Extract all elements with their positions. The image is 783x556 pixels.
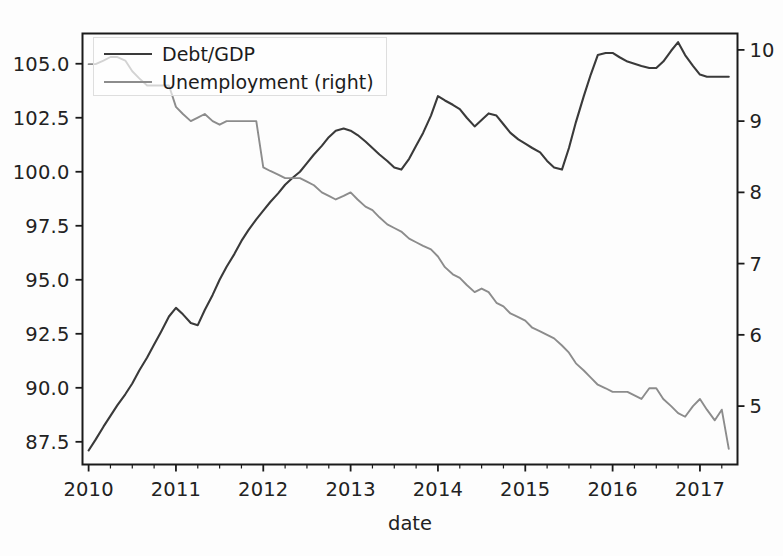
chart-figure: 105.0102.5100.097.595.092.590.087.5 1098… bbox=[0, 0, 783, 556]
x-tick-label: 2014 bbox=[413, 478, 463, 501]
y-tick-label-left: 100.0 bbox=[0, 160, 70, 183]
legend-item-unemployment[interactable]: Unemployment (right) bbox=[94, 67, 386, 96]
y-tick-label-right: 7 bbox=[750, 252, 763, 275]
x-tick-label: 2012 bbox=[238, 478, 288, 501]
series-line-debt-gdp bbox=[89, 42, 729, 450]
x-tick-label: 2016 bbox=[587, 478, 637, 501]
y-tick-label-right: 10 bbox=[750, 38, 775, 61]
legend-item-debt-gdp[interactable]: Debt/GDP bbox=[94, 39, 386, 68]
y-tick-label-right: 9 bbox=[750, 110, 763, 133]
y-tick-label-left: 102.5 bbox=[0, 106, 70, 129]
series-line-unemployment bbox=[89, 57, 729, 449]
legend-label-unemployment: Unemployment (right) bbox=[162, 71, 374, 93]
y-tick-label-left: 97.5 bbox=[0, 214, 70, 237]
y-tick-label-right: 5 bbox=[750, 395, 763, 418]
axes-frame bbox=[83, 34, 738, 465]
x-axis-label: date bbox=[388, 512, 432, 535]
y-tick-label-right: 6 bbox=[750, 323, 763, 346]
x-tick-label: 2015 bbox=[500, 478, 550, 501]
axis-ticks bbox=[76, 50, 745, 472]
y-tick-label-left: 105.0 bbox=[0, 52, 70, 75]
line-swatch-debt-icon bbox=[104, 53, 152, 55]
y-tick-label-left: 90.0 bbox=[0, 376, 70, 399]
y-tick-label-left: 92.5 bbox=[0, 322, 70, 345]
y-tick-label-right: 8 bbox=[750, 181, 763, 204]
x-tick-label: 2013 bbox=[325, 478, 375, 501]
y-tick-label-left: 87.5 bbox=[0, 430, 70, 453]
x-tick-label: 2010 bbox=[63, 478, 113, 501]
line-swatch-unemployment-icon bbox=[104, 81, 152, 83]
x-tick-label: 2017 bbox=[675, 478, 725, 501]
x-tick-label: 2011 bbox=[151, 478, 201, 501]
chart-legend: Debt/GDP Unemployment (right) bbox=[93, 37, 387, 96]
y-tick-label-left: 95.0 bbox=[0, 268, 70, 291]
legend-label-debt-gdp: Debt/GDP bbox=[162, 43, 255, 65]
data-lines bbox=[89, 42, 729, 450]
